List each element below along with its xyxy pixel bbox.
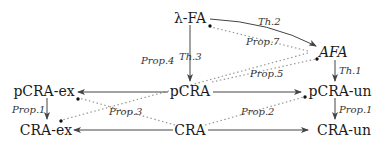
edge-labels: Th.2 Prop.7 Th.3 Prop.4 Prop.5 Th.1 Prop… [11, 16, 372, 117]
node-pcra-ex: pCRA-ex [13, 83, 74, 99]
nodes: λ-FA AFA pCRA-ex pCRA pCRA-un CRA-ex CRA… [13, 10, 371, 138]
label-th3: Th.3 [179, 51, 202, 62]
diagram-canvas: λ-FA AFA pCRA-ex pCRA pCRA-un CRA-ex CRA… [0, 0, 381, 141]
label-prop5: Prop.5 [249, 68, 283, 79]
solid-edges [47, 19, 335, 130]
label-prop3: Prop.3 [108, 106, 142, 117]
label-prop4: Prop.4 [140, 55, 174, 66]
node-pcra: pCRA [170, 83, 211, 99]
node-afa: AFA [317, 44, 348, 60]
node-cra-un: CRA-un [317, 122, 371, 138]
label-th2: Th.2 [258, 16, 281, 27]
node-cra: CRA [174, 122, 206, 138]
node-cra-ex: CRA-ex [20, 122, 72, 138]
label-prop1-right: Prop.1 [338, 104, 372, 115]
label-prop2: Prop.2 [240, 106, 274, 117]
label-prop1-left: Prop.1 [11, 104, 45, 115]
label-th1: Th.1 [339, 65, 362, 76]
node-pcra-un: pCRA-un [308, 83, 371, 99]
label-prop7: Prop.7 [245, 36, 280, 47]
node-lambda-fa: λ-FA [174, 10, 207, 26]
